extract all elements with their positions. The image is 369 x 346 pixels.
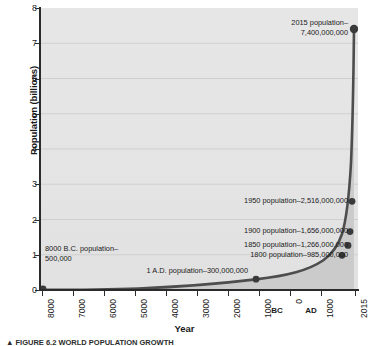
marker-1ad (253, 276, 260, 283)
figure-world-population-growth: Population (billions) 8 7 6 5 4 3 2 1 0 (0, 0, 369, 346)
annotation-8000bc: 8000 B.C. population– 500,000 (45, 244, 118, 263)
annotation-1950: 1950 population–2,516,000,000 (244, 196, 348, 206)
x-tick-label: 3000 (201, 299, 211, 318)
marker-1950 (349, 198, 356, 205)
y-tick-mark (35, 220, 40, 221)
annotation-2015: 2015 population– 7,400,000,000 (291, 18, 348, 37)
x-tick-label: 0 (294, 299, 304, 304)
y-tick-mark (35, 114, 40, 115)
y-axis-tick-labels: 8 7 6 5 4 3 2 1 0 (17, 0, 37, 346)
x-tick-mark (104, 290, 105, 296)
x-tick-mark (228, 290, 229, 296)
era-label-ad: AD (305, 306, 317, 315)
y-tick-mark (35, 149, 40, 150)
figure-caption: ▲ FIGURE 6.2 WORLD POPULATION GROWTH (6, 338, 366, 346)
x-tick-label: 5000 (139, 299, 149, 318)
annotation-1850: 1850 population–1,266,000,000 (244, 240, 348, 250)
x-tick-mark (355, 290, 356, 296)
x-tick-mark (73, 290, 74, 296)
era-label-bc: BC (271, 306, 283, 315)
x-tick-mark (259, 290, 260, 296)
x-tick-label: 2000 (232, 299, 242, 318)
x-tick-label: 1000 (325, 299, 335, 318)
gridlines (40, 43, 358, 255)
x-axis-title: Year (0, 323, 369, 334)
x-tick-label: 4000 (170, 299, 180, 318)
x-tick-mark (290, 290, 291, 296)
x-tick-mark (166, 290, 167, 296)
y-tick-mark (35, 79, 40, 80)
x-tick-mark (135, 290, 136, 296)
annotation-1800: 1800 population–985,000,000 (250, 250, 348, 260)
x-tick-mark (197, 290, 198, 296)
y-tick-mark (35, 184, 40, 185)
x-tick-label: 8000 (46, 299, 56, 318)
x-tick-label: 6000 (108, 299, 118, 318)
annotation-1ad: 1 A.D. population–300,000,000 (146, 266, 248, 276)
annotation-1900: 1900 population–1,656,000,000 (244, 226, 348, 236)
x-tick-mark (321, 290, 322, 296)
x-tick-label: 2015 (359, 299, 369, 318)
y-tick-mark (35, 8, 40, 9)
plot-area: 2015 population– 7,400,000,000 1950 popu… (40, 8, 358, 290)
y-tick-mark (35, 255, 40, 256)
x-tick-mark (42, 290, 43, 296)
marker-2015 (350, 25, 358, 33)
y-tick-mark (35, 43, 40, 44)
x-tick-label: 7000 (77, 299, 87, 318)
